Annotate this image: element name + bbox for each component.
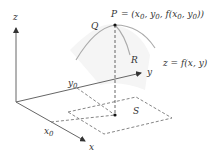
x0-label: x0 [44, 126, 54, 138]
y-axis [16, 73, 141, 102]
y-axis-label: y [146, 67, 153, 77]
surface-label: z = f(x, y) [162, 58, 208, 68]
s-label: S [133, 106, 139, 116]
p-label: P = (x0, y0, f(x0, y0)) [110, 9, 205, 21]
y0-label: y0 [67, 78, 78, 90]
r-label: R [130, 55, 138, 65]
region-s-outline [68, 97, 172, 134]
x-axis-label: x [89, 142, 94, 152]
q-label: Q [91, 21, 99, 31]
y0-projection-line [77, 88, 115, 115]
z-axis-label: z [12, 12, 18, 22]
diagram-canvas: z y x x0 y0 Q R S P = (x0, y0, f(x0, y0)… [0, 0, 218, 158]
point-base [113, 113, 116, 116]
point-p [113, 23, 116, 26]
